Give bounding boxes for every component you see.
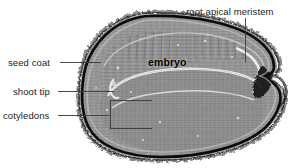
seed-illustration (0, 0, 295, 168)
label-shoot-tip: shoot tip (13, 86, 50, 97)
label-seed-coat: seed coat (8, 57, 50, 68)
label-root-apical-meristem: root apical meristem (186, 6, 274, 17)
label-embryo: embryo (148, 57, 187, 68)
label-cotyledons: cotyledons (3, 110, 49, 121)
seed-section-figure: seed coat shoot tip cotyledons root apic… (0, 0, 295, 168)
